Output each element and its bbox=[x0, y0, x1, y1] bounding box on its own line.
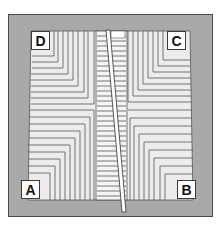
corner-label-b: B bbox=[177, 180, 196, 199]
corner-label-a: A bbox=[21, 180, 40, 199]
top-gap bbox=[111, 31, 125, 38]
corner-label-d: D bbox=[31, 31, 50, 50]
corner-label-c: C bbox=[167, 31, 186, 50]
